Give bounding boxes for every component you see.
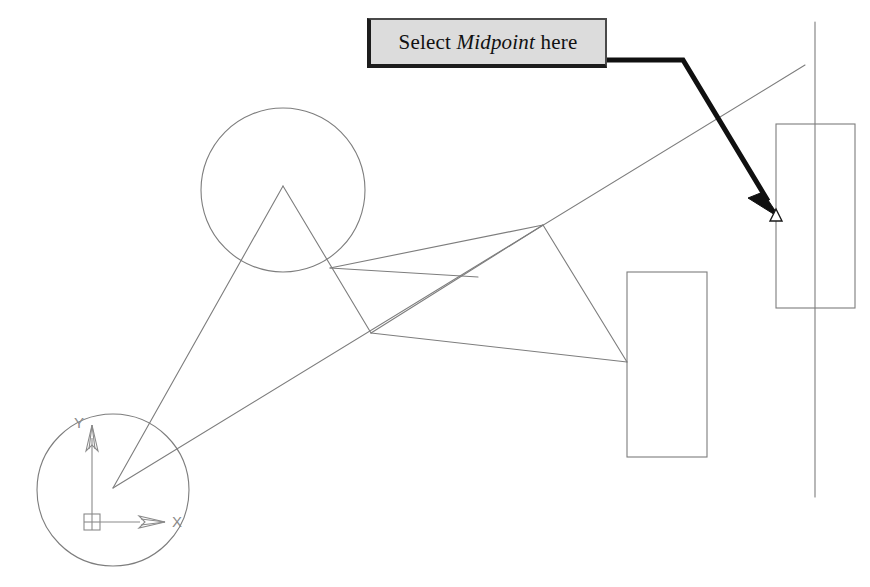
callout-text-after: here <box>535 30 577 54</box>
ucs-y-axis-label: Y <box>74 414 84 431</box>
lower-left-circle <box>37 414 189 566</box>
callout-text-before: Select <box>399 30 457 54</box>
triangle-left-leg <box>113 186 283 488</box>
cad-drawing-viewport <box>0 0 870 587</box>
ucs-coordinate-icon <box>84 425 165 530</box>
upper-circle <box>201 108 365 272</box>
leader-arrow-shaft <box>607 60 768 201</box>
callout-keyword: Midpoint <box>456 30 535 54</box>
junction-to-crossing-line <box>371 225 543 333</box>
circle-tangent-line <box>330 225 543 268</box>
long-diagonal-line <box>113 65 805 488</box>
geometry-group <box>37 22 855 566</box>
callout-leader-arrow <box>607 60 780 218</box>
callout-label-box: Select Midpoint here <box>367 18 607 68</box>
middle-rectangle <box>627 272 707 457</box>
triangle-right-leg <box>283 186 371 333</box>
crossing-to-rectangle-line <box>543 225 627 362</box>
drawing-canvas: Select Midpoint here Y X <box>0 0 870 587</box>
callout-label-text: Select Midpoint here <box>399 30 578 55</box>
upper-chord-line <box>330 268 478 277</box>
junction-to-rectangle-line <box>371 333 627 362</box>
ucs-x-axis-label: X <box>172 513 182 530</box>
